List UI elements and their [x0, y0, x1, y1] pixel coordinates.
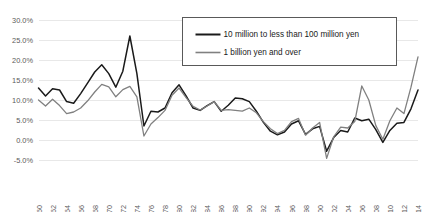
x-tick-label: 2000 — [316, 205, 325, 212]
x-axis-tick-labels: 1960196219641966196819701972197419761978… — [35, 205, 422, 212]
chart-canvas: -5.0%0.0%5.0%10.0%15.0%20.0%25.0%30.0% 1… — [0, 0, 422, 212]
x-tick-label: 1984 — [203, 205, 212, 212]
y-tick-label: 30.0% — [12, 16, 33, 25]
x-tick-label: 2006 — [358, 205, 367, 212]
y-tick-label: 0.0% — [16, 136, 33, 145]
legend-box — [183, 18, 397, 66]
y-tick-label: 20.0% — [12, 56, 33, 65]
y-tick-label: 25.0% — [12, 36, 33, 45]
x-tick-label: 1964 — [63, 205, 72, 212]
y-tick-label: 5.0% — [16, 116, 33, 125]
x-tick-label: 1976 — [147, 205, 156, 212]
x-tick-label: 2002 — [330, 205, 339, 212]
chart-legend: 10 million to less than 100 million yen1… — [183, 18, 397, 66]
legend-label-1: 10 million to less than 100 million yen — [224, 30, 360, 39]
y-tick-label: 10.0% — [12, 96, 33, 105]
x-tick-label: 1970 — [105, 205, 114, 212]
y-axis-tick-labels: -5.0%0.0%5.0%10.0%15.0%20.0%25.0%30.0% — [12, 16, 33, 165]
x-tick-label: 1996 — [288, 205, 297, 212]
x-tick-label: 1982 — [189, 205, 198, 212]
x-tick-label: 1972 — [119, 205, 128, 212]
y-tick-label: -5.0% — [14, 156, 34, 165]
x-tick-label: 1994 — [273, 205, 282, 212]
x-tick-label: 1986 — [217, 205, 226, 212]
x-tick-label: 1990 — [245, 205, 254, 212]
x-tick-label: 1998 — [302, 205, 311, 212]
x-tick-label: 1974 — [133, 205, 142, 212]
x-tick-label: 1962 — [49, 205, 58, 212]
x-tick-label: 2012 — [400, 205, 409, 212]
x-tick-label: 1966 — [77, 205, 86, 212]
x-tick-label: 1988 — [231, 205, 240, 212]
legend-label-2: 1 billion yen and over — [224, 48, 302, 57]
x-tick-label: 2004 — [344, 205, 353, 212]
x-tick-label: 1992 — [259, 205, 268, 212]
x-tick-label: 1978 — [161, 205, 170, 212]
x-tick-label: 1968 — [91, 205, 100, 212]
x-tick-label: 1960 — [35, 205, 44, 212]
y-tick-label: 15.0% — [12, 76, 33, 85]
x-tick-label: 2010 — [386, 205, 395, 212]
x-tick-label: 2014 — [414, 205, 422, 212]
x-tick-label: 2008 — [372, 205, 381, 212]
x-tick-label: 1980 — [175, 205, 184, 212]
line-chart: -5.0%0.0%5.0%10.0%15.0%20.0%25.0%30.0% 1… — [0, 0, 422, 212]
